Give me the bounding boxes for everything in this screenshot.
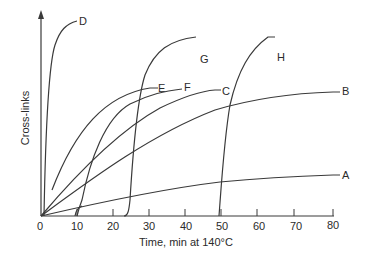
curve-label-g: G <box>200 53 209 65</box>
curve-e <box>52 88 158 190</box>
curve-b <box>41 92 340 216</box>
curve-label-a: A <box>342 169 350 181</box>
x-ticks <box>77 209 333 216</box>
tick-label: 50 <box>216 220 228 232</box>
tick-label: 30 <box>143 220 155 232</box>
axes <box>38 10 334 216</box>
curve-label-e: E <box>158 82 165 94</box>
x-tick-labels: 0 10 20 30 40 50 60 70 80 <box>37 219 339 232</box>
curve-d <box>44 21 77 216</box>
curve-label-d: D <box>79 15 87 27</box>
tick-label: 80 <box>327 219 339 231</box>
curves <box>41 21 340 216</box>
curve-label-h: H <box>277 51 285 63</box>
tick-label: 40 <box>180 220 192 232</box>
tick-label: 20 <box>107 220 119 232</box>
cure-curves-chart: 0 10 20 30 40 50 60 70 80 Time, min at 1… <box>0 0 367 255</box>
y-axis-title: Cross-links <box>19 90 31 145</box>
tick-label: 70 <box>290 220 302 232</box>
curve-label-b: B <box>342 85 349 97</box>
tick-label: 60 <box>253 220 265 232</box>
tick-label: 0 <box>37 220 43 232</box>
y-axis-arrow-icon <box>38 10 44 19</box>
curve-label-f: F <box>184 81 191 93</box>
curve-label-c: C <box>222 85 230 97</box>
x-axis-title: Time, min at 140°C <box>139 236 233 248</box>
curve-h <box>219 37 275 216</box>
tick-label: 10 <box>71 220 83 232</box>
curve-g <box>124 37 196 216</box>
